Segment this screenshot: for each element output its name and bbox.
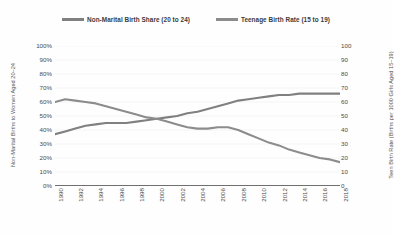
axis-tick-label: 70 xyxy=(341,85,348,91)
x-axis-tick-label: 2006 xyxy=(220,188,226,202)
axis-tick-label: 40 xyxy=(341,127,348,133)
plot-area xyxy=(55,46,340,186)
x-axis-tick-label: 2012 xyxy=(282,188,288,202)
x-axis-tick-label: 2000 xyxy=(159,188,165,202)
axis-tick-label: 80% xyxy=(40,71,52,77)
axis-tick-label: 20 xyxy=(341,155,348,161)
axis-tick-label: 100 xyxy=(341,43,351,49)
x-axis-tick-label: 1992 xyxy=(78,188,84,202)
axis-tick-label: 30% xyxy=(40,141,52,147)
x-axis-tick-label: 1996 xyxy=(119,188,125,202)
x-axis-tick-label: 2008 xyxy=(241,188,247,202)
axis-tick-label: 30 xyxy=(341,141,348,147)
legend-label-teenage-birth-rate: Teenage Birth Rate (15 to 19) xyxy=(241,16,330,23)
x-axis-tick-label: 2010 xyxy=(261,188,267,202)
legend-swatch-teenage-birth-rate xyxy=(216,18,238,21)
y-axis-right-ticks: 0102030405060708090100 xyxy=(341,46,367,186)
x-axis-tick-label: 2004 xyxy=(200,188,206,202)
axis-tick-label: 90% xyxy=(40,57,52,63)
legend-label-non-marital-birth-share: Non-Marital Birth Share (20 to 24) xyxy=(87,16,190,23)
axis-tick-label: 80 xyxy=(341,71,348,77)
plot-svg xyxy=(55,46,340,186)
x-axis-tick-label: 2014 xyxy=(302,188,308,202)
axis-tick-label: 10 xyxy=(341,169,348,175)
axis-tick-label: 90 xyxy=(341,57,348,63)
x-axis-tick-label: 1994 xyxy=(98,188,104,202)
legend-swatch-non-marital-birth-share xyxy=(62,18,84,21)
axis-tick-label: 70% xyxy=(40,85,52,91)
axis-tick-label: 0% xyxy=(43,183,52,189)
axis-tick-label: 60 xyxy=(341,99,348,105)
x-axis-tick-label: 2002 xyxy=(180,188,186,202)
axis-tick-label: 50% xyxy=(40,113,52,119)
axis-tick-label: 40% xyxy=(40,127,52,133)
x-axis-tick-label: 1990 xyxy=(58,188,64,202)
x-axis-ticks: 1990199219941996199820002002200420062008… xyxy=(55,188,340,232)
y-axis-left-ticks: 0%10%20%30%40%50%60%70%80%90%100% xyxy=(16,46,52,186)
axis-tick-label: 50 xyxy=(341,113,348,119)
y-axis-right-title: Teen Birth Rate (Births per 1000 Girls A… xyxy=(388,35,394,195)
legend-item-non-marital-birth-share[interactable]: Non-Marital Birth Share (20 to 24) xyxy=(62,16,190,23)
x-axis-tick-label: 1998 xyxy=(139,188,145,202)
axis-tick-label: 20% xyxy=(40,155,52,161)
axis-tick-label: 10% xyxy=(40,169,52,175)
x-axis-tick-label: 2018 xyxy=(343,188,349,202)
axis-tick-label: 60% xyxy=(40,99,52,105)
legend-item-teenage-birth-rate[interactable]: Teenage Birth Rate (15 to 19) xyxy=(216,16,330,23)
x-axis-tick-label: 2016 xyxy=(322,188,328,202)
axis-tick-label: 100% xyxy=(36,43,52,49)
chart-legend: Non-Marital Birth Share (20 to 24) Teena… xyxy=(0,16,392,23)
line-teenage-birth-rate xyxy=(55,99,340,162)
